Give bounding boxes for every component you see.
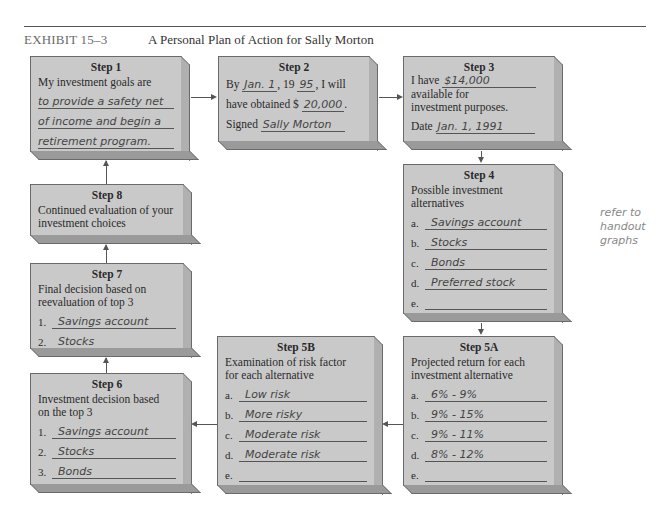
- decision-2-field[interactable]: Stocks: [52, 445, 176, 459]
- item-label: b.: [225, 409, 239, 422]
- arrowhead-down-icon: [478, 329, 484, 335]
- decision-1-field[interactable]: Savings account: [52, 425, 176, 439]
- item-label: 3.: [38, 466, 52, 479]
- risk-d-field[interactable]: Moderate risk: [239, 448, 367, 462]
- step-prompt: Projected return for each: [411, 356, 547, 369]
- signed-label: Signed: [226, 118, 258, 130]
- step-prompt: Continued evaluation of your: [38, 204, 176, 217]
- step-prompt-2: alternatives: [411, 197, 547, 210]
- alternative-b-field[interactable]: Stocks: [425, 236, 547, 250]
- step-prompt: Examination of risk factor: [225, 356, 367, 369]
- exhibit-label: EXHIBIT 15–3: [24, 32, 107, 48]
- item-label: 1.: [38, 426, 52, 439]
- signature-field[interactable]: Sally Morton: [261, 118, 345, 132]
- goal-line-2[interactable]: of income and begin a: [38, 115, 174, 129]
- item-label: c.: [411, 257, 425, 270]
- item-label: c.: [411, 429, 425, 442]
- step-title: Step 5A: [411, 341, 547, 354]
- step-3-box: Step 3 I have $14,000 available for inve…: [403, 56, 555, 142]
- date-field[interactable]: Jan. 1, 1991: [436, 120, 535, 134]
- available-amount-field[interactable]: $14,000: [442, 74, 536, 88]
- available-text: available for: [411, 88, 547, 101]
- target-date-field[interactable]: Jan. 1: [242, 78, 277, 92]
- step-5b-box: Step 5B Examination of risk factor for e…: [217, 336, 375, 486]
- period: .: [344, 98, 347, 110]
- note-line: graphs: [600, 234, 669, 248]
- step-title: Step 8: [38, 189, 176, 202]
- arrowhead-up-icon: [103, 160, 109, 166]
- step-prompt-2: on the top 3: [38, 406, 176, 419]
- final-1-field[interactable]: Savings account: [52, 315, 176, 329]
- have-label: I have: [411, 74, 439, 86]
- item-label: e.: [411, 297, 425, 310]
- by-label: By: [226, 78, 239, 90]
- step-title: Step 5B: [225, 341, 367, 354]
- item-label: a.: [411, 389, 425, 402]
- item-label: 1.: [38, 316, 52, 329]
- step-5a-box: Step 5A Projected return for each invest…: [403, 336, 555, 486]
- step-7-box: Step 7 Final decision based on reevaluat…: [30, 263, 184, 349]
- will-text: , I will: [315, 78, 345, 90]
- note-line: refer to: [600, 206, 669, 220]
- note-line: handout: [600, 220, 669, 234]
- return-d-field[interactable]: 8% - 12%: [425, 448, 547, 462]
- arrowhead-right-icon: [397, 94, 403, 100]
- step-prompt-2: investment choices: [38, 217, 176, 230]
- risk-e-field[interactable]: [239, 468, 367, 482]
- step-4-box: Step 4 Possible investment alternatives …: [403, 164, 555, 314]
- item-label: e.: [225, 469, 239, 482]
- target-amount-field[interactable]: 20,000: [302, 98, 345, 112]
- goal-line-3[interactable]: retirement program.: [38, 135, 174, 149]
- margin-note: refer to handout graphs: [600, 206, 669, 248]
- risk-c-field[interactable]: Moderate risk: [239, 428, 367, 442]
- item-label: d.: [411, 449, 425, 462]
- item-label: 2.: [38, 446, 52, 459]
- step-title: Step 3: [411, 61, 547, 74]
- step-1-box: Step 1 My investment goals are to provid…: [30, 56, 182, 152]
- risk-a-field[interactable]: Low risk: [239, 388, 367, 402]
- item-label: a.: [411, 217, 425, 230]
- return-e-field[interactable]: [425, 468, 547, 482]
- return-c-field[interactable]: 9% - 11%: [425, 428, 547, 442]
- step-prompt: Possible investment: [411, 184, 547, 197]
- alternative-c-field[interactable]: Bonds: [425, 256, 547, 270]
- step-prompt: Final decision based on: [38, 283, 176, 296]
- item-label: a.: [225, 389, 239, 402]
- arrow-1-to-2: [191, 97, 213, 98]
- final-2-field[interactable]: Stocks: [52, 335, 176, 349]
- page-title: A Personal Plan of Action for Sally Mort…: [148, 32, 374, 48]
- arrowhead-up-icon: [103, 244, 109, 250]
- item-label: b.: [411, 237, 425, 250]
- item-label: c.: [225, 429, 239, 442]
- return-a-field[interactable]: 6% - 9%: [425, 388, 547, 402]
- arrowhead-up-icon: [103, 357, 109, 363]
- step-2-box: Step 2 By Jan. 1, 19 95, I will have obt…: [218, 56, 370, 142]
- step-prompt-2: for each alternative: [225, 369, 367, 382]
- decision-3-field[interactable]: Bonds: [52, 465, 176, 479]
- year-prefix: , 19: [277, 78, 294, 90]
- alternative-a-field[interactable]: Savings account: [425, 216, 547, 230]
- alternative-e-field[interactable]: [425, 296, 547, 310]
- step-prompt-2: reevaluation of top 3: [38, 296, 176, 309]
- step-6-box: Step 6 Investment decision based on the …: [30, 373, 184, 485]
- arrowhead-down-icon: [478, 157, 484, 163]
- step-title: Step 1: [38, 61, 174, 74]
- goal-line-1[interactable]: to provide a safety net: [38, 95, 174, 109]
- step-title: Step 4: [411, 169, 547, 182]
- purposes-text: investment purposes.: [411, 101, 547, 114]
- date-label: Date: [411, 120, 433, 132]
- arrowhead-left-icon: [382, 421, 388, 427]
- step-title: Step 7: [38, 268, 176, 281]
- item-label: d.: [411, 277, 425, 290]
- alternative-d-field[interactable]: Preferred stock: [425, 276, 547, 290]
- arrowhead-right-icon: [211, 94, 217, 100]
- item-label: b.: [411, 409, 425, 422]
- step-8-box: Step 8 Continued evaluation of your inve…: [30, 184, 184, 236]
- risk-b-field[interactable]: More risky: [239, 408, 367, 422]
- target-year-field[interactable]: 95: [297, 78, 315, 92]
- step-title: Step 2: [226, 61, 362, 74]
- header-rule: [24, 26, 646, 27]
- return-b-field[interactable]: 9% - 15%: [425, 408, 547, 422]
- item-label: 2.: [38, 336, 52, 349]
- step-prompt: Investment decision based: [38, 393, 176, 406]
